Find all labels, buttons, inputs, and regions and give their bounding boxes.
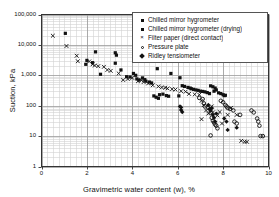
x-tick-label: 2: [77, 170, 97, 176]
x-tick-label: 8: [213, 170, 233, 176]
legend-item: Chilled mirror hygrometer (drying): [136, 24, 265, 33]
x-tick-label: 0: [32, 170, 52, 176]
filled-square-marker-icon: [136, 15, 148, 24]
legend-item: Ridley tensiometer: [136, 51, 265, 60]
chart-figure: 1101001,00010,000100,000 0246810 Suction…: [0, 0, 278, 197]
y-tick-label: 100,000: [2, 11, 36, 17]
x-tick-label: 10: [259, 170, 279, 176]
legend-item-label: Chilled mirror hygrometer (drying): [148, 24, 242, 33]
legend-item-label: Chilled mirror hygrometer: [148, 15, 219, 24]
x-marker-icon: ×: [136, 33, 148, 43]
legend-item: Pressure plate: [136, 42, 265, 51]
x-axis-title: Gravimetric water content (w), %: [0, 185, 278, 194]
legend-item: ×Filter paper (direct contact): [136, 33, 265, 42]
x-tick-label: 4: [122, 170, 142, 176]
legend-item: Chilled mirror hygrometer: [136, 15, 265, 24]
chart-legend: Chilled mirror hygrometerChilled mirror …: [132, 12, 268, 63]
filled-diamond-marker-icon: [136, 51, 148, 60]
filled-square-marker-icon: [136, 24, 148, 33]
x-tick-label: 6: [168, 170, 188, 176]
y-axis-title: Suction, kPa: [8, 46, 17, 136]
legend-item-label: Pressure plate: [148, 42, 189, 51]
open-circle-marker-icon: [136, 42, 148, 51]
y-tick-label: 1: [2, 163, 36, 169]
legend-item-label: Filter paper (direct contact): [148, 33, 223, 42]
legend-item-label: Ridley tensiometer: [148, 51, 200, 60]
